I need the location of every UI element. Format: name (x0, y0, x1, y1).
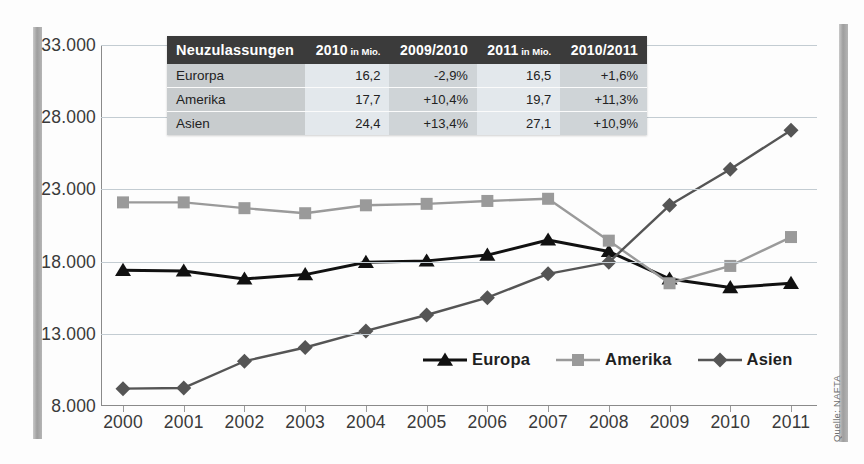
x-tick-label: 2005 (407, 412, 447, 433)
square-marker (603, 235, 615, 247)
source-note: Quelle: NAFTA (831, 375, 842, 442)
header-unit: in Mio. (348, 46, 381, 57)
cell-region: Eurorpa (167, 64, 305, 88)
x-tick-label: 2011 (772, 412, 810, 433)
stats-header-row: Neuzulassungen 2010 in Mio. 2009/2010 20… (167, 36, 647, 64)
stats-table-head: Neuzulassungen 2010 in Mio. 2009/2010 20… (167, 36, 647, 64)
legend-item-europa: Europa (423, 350, 530, 369)
stats-table-body: Eurorpa16,2-2,9%16,5+1,6%Amerika17,7+10,… (167, 64, 647, 135)
legend-label: Amerika (605, 350, 672, 369)
legend-swatch (698, 351, 742, 369)
x-tick-label: 2009 (650, 412, 690, 433)
cell-2011: 27,1 (477, 112, 560, 136)
x-tick-label: 2000 (103, 412, 143, 433)
chart-legend: EuropaAmerikaAsien (423, 350, 793, 369)
y-tick-label: 18.000 (41, 251, 96, 272)
legend-swatch (423, 351, 467, 369)
x-tick-label: 2008 (589, 412, 629, 433)
table-row: Amerika17,7+10,4%19,7+11,3% (167, 88, 647, 112)
cell-2010: 24,4 (305, 112, 389, 136)
square-marker (481, 195, 493, 207)
cell-2010: 17,7 (305, 88, 389, 112)
diamond-marker (723, 162, 738, 177)
square-marker (178, 196, 190, 208)
cell-2010-2011: +1,6% (560, 64, 647, 88)
y-tick-label: 23.000 (41, 179, 96, 200)
cell-2009-2010: +13,4% (389, 112, 476, 136)
cell-2010: 16,2 (305, 64, 389, 88)
y-tick-label: 13.000 (41, 323, 96, 344)
series-line (123, 240, 791, 288)
y-axis-labels: 8.00013.00018.00023.00028.00033.000 (0, 45, 96, 406)
col-header-2010: 2010 in Mio. (305, 36, 389, 64)
col-header-2009-2010: 2009/2010 (389, 36, 476, 64)
square-marker (421, 198, 433, 210)
square-marker (542, 193, 554, 205)
legend-swatch (556, 351, 600, 369)
col-header-2010-2011: 2010/2011 (560, 36, 647, 64)
y-tick-label: 33.000 (41, 35, 96, 56)
series-line (123, 199, 791, 283)
col-header-2011: 2011 in Mio. (477, 36, 560, 64)
diamond-marker (176, 380, 191, 395)
diamond-marker (358, 323, 373, 338)
series-europa (115, 232, 799, 293)
square-marker (299, 207, 311, 219)
square-marker (785, 231, 797, 243)
cell-region: Amerika (167, 88, 305, 112)
cell-region: Asien (167, 112, 305, 136)
diamond-marker (419, 308, 434, 323)
diamond-marker (116, 381, 131, 396)
y-tick-label: 8.000 (51, 396, 96, 417)
x-tick-label: 2006 (467, 412, 507, 433)
y-tick-label: 28.000 (41, 107, 96, 128)
x-tick-label: 2002 (225, 412, 265, 433)
x-tick-label: 2010 (710, 412, 750, 433)
x-tick-label: 2007 (528, 412, 568, 433)
diamond-marker (480, 290, 495, 305)
diamond-marker (541, 266, 556, 281)
diamond-marker (237, 354, 252, 369)
col-header-region: Neuzulassungen (167, 36, 305, 64)
diamond-marker (712, 352, 727, 367)
square-marker (572, 354, 584, 366)
cell-2009-2010: -2,9% (389, 64, 476, 88)
legend-label: Asien (747, 350, 793, 369)
square-marker (117, 196, 129, 208)
triangle-marker (540, 232, 556, 245)
table-row: Eurorpa16,2-2,9%16,5+1,6% (167, 64, 647, 88)
gridline (101, 334, 817, 335)
gridline (101, 262, 817, 263)
cell-2011: 16,5 (477, 64, 560, 88)
table-row: Asien24,4+13,4%27,1+10,9% (167, 112, 647, 136)
chart-figure: 8.00013.00018.00023.00028.00033.000 2000… (0, 0, 864, 464)
header-unit: in Mio. (519, 46, 552, 57)
legend-item-amerika: Amerika (556, 350, 672, 369)
stats-table: Neuzulassungen 2010 in Mio. 2009/2010 20… (167, 36, 647, 135)
x-tick-label: 2004 (346, 412, 386, 433)
x-tick-label: 2001 (164, 412, 204, 433)
diamond-marker (298, 340, 313, 355)
square-marker (360, 199, 372, 211)
square-marker (664, 277, 676, 289)
cell-2010-2011: +10,9% (560, 112, 647, 136)
legend-label: Europa (472, 350, 530, 369)
cell-2010-2011: +11,3% (560, 88, 647, 112)
legend-item-asien: Asien (698, 350, 793, 369)
diamond-marker (784, 123, 799, 138)
square-marker (238, 202, 250, 214)
cell-2009-2010: +10,4% (389, 88, 476, 112)
gridline (101, 189, 817, 190)
cell-2011: 19,7 (477, 88, 560, 112)
x-tick-label: 2003 (285, 412, 325, 433)
x-axis-labels: 2000200120022003200420052006200720082009… (101, 412, 817, 440)
